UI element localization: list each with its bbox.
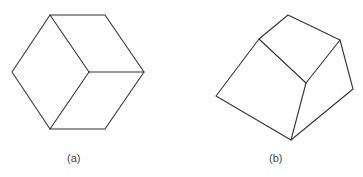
solid-inner-edge-bottom [291,83,306,140]
diagram-canvas [0,0,363,177]
solid-inner-edge-left [259,39,306,83]
figure-b-solid [216,15,353,140]
figure-a-hexagon [12,15,144,129]
hexagon-inner-edge-bottom [50,72,89,129]
solid-inner-edge-right [306,40,340,83]
hexagon-inner-edge-top [50,15,89,72]
figure-a-label: (a) [67,152,80,164]
figure-b-label: (b) [269,152,282,164]
solid-outline [216,15,353,140]
